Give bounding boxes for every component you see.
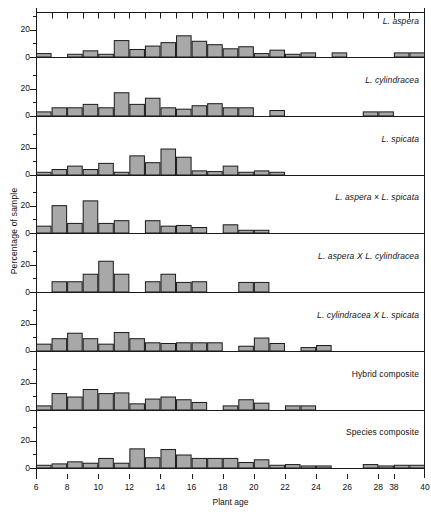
x-tick-label: 8 xyxy=(65,482,70,492)
y-tick-label: 0 xyxy=(8,288,30,297)
panel-7: 020Hybrid composite xyxy=(36,361,425,420)
x-tick-label: 22 xyxy=(280,482,289,492)
bar xyxy=(177,157,192,175)
bar xyxy=(83,463,98,468)
bar xyxy=(161,226,176,233)
panel-stack: 020L. aspera020L. cylindracea020L. spica… xyxy=(36,8,425,478)
plot-area xyxy=(36,126,425,185)
panel-label: L. cylindracea xyxy=(365,75,419,85)
bar xyxy=(177,399,192,409)
bar xyxy=(192,343,207,351)
bar xyxy=(363,465,378,468)
bar xyxy=(114,332,129,350)
bar xyxy=(161,450,176,468)
bar xyxy=(239,172,254,175)
bar xyxy=(37,466,52,469)
bar xyxy=(254,460,269,468)
bar xyxy=(130,49,145,57)
y-tick-label: 0 xyxy=(8,170,30,179)
panel-label: L. spicata xyxy=(382,134,419,144)
bar xyxy=(301,53,316,57)
x-axis-tick-labels: 68101214161820222426283840 xyxy=(36,480,425,492)
y-tick-label: 20 xyxy=(8,25,30,34)
bar xyxy=(130,403,145,409)
bar xyxy=(301,405,316,409)
bar xyxy=(394,466,409,469)
bar xyxy=(379,466,394,468)
y-tick-label: 0 xyxy=(8,229,30,238)
bar xyxy=(192,170,207,174)
bar xyxy=(145,162,160,174)
bar xyxy=(270,50,285,57)
bar xyxy=(177,455,192,468)
bar xyxy=(254,403,269,410)
bar xyxy=(83,201,98,233)
bar xyxy=(99,344,114,351)
bar xyxy=(192,282,207,292)
bar xyxy=(83,51,98,57)
bar xyxy=(83,169,98,174)
bar xyxy=(270,110,285,115)
bar xyxy=(239,282,254,292)
bar xyxy=(223,49,238,57)
y-tick-label: 20 xyxy=(8,436,30,445)
bar xyxy=(208,343,223,351)
x-tick-label: 6 xyxy=(34,482,39,492)
bar xyxy=(130,104,145,116)
y-tick-label: 20 xyxy=(8,378,30,387)
bar xyxy=(208,45,223,57)
x-tick-label: 26 xyxy=(342,482,351,492)
x-tick-label: 14 xyxy=(156,482,165,492)
bar xyxy=(52,169,67,174)
bar xyxy=(114,463,129,468)
bar xyxy=(223,459,238,469)
panel-label: Species composite xyxy=(346,427,419,437)
bar xyxy=(37,226,52,233)
bar xyxy=(68,54,83,57)
x-tick-label: 10 xyxy=(94,482,103,492)
bar xyxy=(270,172,285,175)
y-tick-label: 0 xyxy=(8,53,30,62)
bar xyxy=(161,397,176,410)
y-tick-label: 20 xyxy=(8,143,30,152)
bar xyxy=(114,392,129,409)
x-tick-label: 20 xyxy=(249,482,258,492)
bar xyxy=(114,93,129,116)
bar xyxy=(223,225,238,233)
y-tick-label: 0 xyxy=(8,111,30,120)
panel-6: 020L. cylindracea X L. spicata xyxy=(36,302,425,361)
panel-2: 020L. cylindracea xyxy=(36,67,425,126)
bar xyxy=(301,347,316,350)
y-tick-label: 20 xyxy=(8,260,30,269)
x-tick-label: 18 xyxy=(218,482,227,492)
bar xyxy=(177,226,192,234)
bar xyxy=(145,282,160,292)
bar xyxy=(177,109,192,116)
bar xyxy=(192,106,207,116)
bar xyxy=(83,274,98,292)
bar xyxy=(254,231,269,234)
bar xyxy=(363,112,378,116)
bar xyxy=(177,36,192,57)
bar xyxy=(145,399,160,410)
y-tick-label: 0 xyxy=(8,405,30,414)
bar xyxy=(145,221,160,233)
x-axis-title: Plant age xyxy=(36,497,425,507)
y-tick-label: 0 xyxy=(8,464,30,473)
bar xyxy=(161,149,176,175)
bar xyxy=(192,228,207,233)
bar xyxy=(239,399,254,409)
bar xyxy=(161,274,176,292)
panel-label: L. aspera xyxy=(383,16,419,26)
panel-8: 020Species composite xyxy=(36,419,425,478)
bar xyxy=(114,172,129,175)
bar xyxy=(254,282,269,292)
bar xyxy=(239,47,254,57)
bar xyxy=(239,231,254,234)
bar xyxy=(37,405,52,409)
bar xyxy=(99,224,114,234)
bar xyxy=(192,459,207,469)
bar xyxy=(410,53,425,57)
bar xyxy=(410,466,425,469)
bar xyxy=(285,54,300,57)
